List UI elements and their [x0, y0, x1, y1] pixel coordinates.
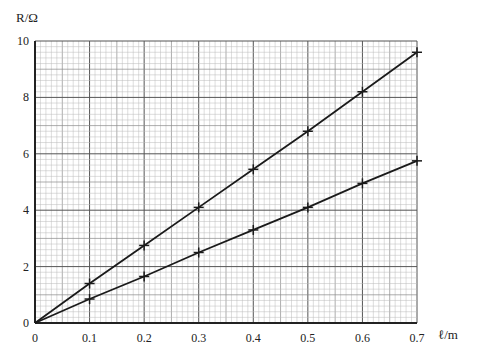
plus-marker-icon: [412, 156, 422, 166]
y-tick-label: 4: [23, 203, 29, 217]
x-axis-label: ℓ/m: [438, 327, 458, 342]
y-tick-label: 8: [23, 90, 29, 104]
y-axis-label: R/Ω: [16, 10, 38, 25]
data-series: [35, 47, 422, 323]
x-tick-label: 0.2: [137, 331, 152, 345]
y-tick-label: 0: [23, 316, 29, 330]
x-tick-label: 0.3: [191, 331, 206, 345]
plus-marker-icon: [85, 294, 95, 304]
plus-marker-icon: [248, 225, 258, 235]
x-tick-label: 0.7: [410, 331, 425, 345]
y-tick-label: 2: [23, 260, 29, 274]
x-tick-label: 0.4: [246, 331, 261, 345]
x-tick-label: 0.1: [82, 331, 97, 345]
plus-marker-icon: [303, 202, 313, 212]
chart: 00.10.20.30.40.50.60.70246810 R/Ω ℓ/m: [0, 0, 479, 358]
plus-marker-icon: [139, 271, 149, 281]
x-tick-label: 0.5: [300, 331, 315, 345]
plus-marker-icon: [194, 248, 204, 258]
plus-marker-icon: [357, 178, 367, 188]
y-tick-label: 6: [23, 147, 29, 161]
x-tick-label: 0.6: [355, 331, 370, 345]
x-tick-label: 0: [32, 331, 38, 345]
y-tick-label: 10: [17, 34, 29, 48]
